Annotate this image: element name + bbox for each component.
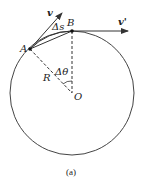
circular-motion-diagram: A B O R v v' Δs Δθ (a)	[0, 0, 145, 181]
label-b: B	[66, 17, 74, 28]
label-o: O	[74, 91, 82, 102]
point-a	[28, 47, 32, 51]
chord-ab	[30, 31, 72, 49]
label-velocity-b: v'	[118, 16, 127, 27]
label-angle: Δθ	[54, 66, 68, 77]
label-r: R	[42, 72, 51, 83]
label-a: A	[19, 43, 27, 54]
angle-arc	[63, 81, 72, 84]
label-arc-ds: Δs	[51, 21, 64, 32]
point-b	[70, 29, 74, 33]
figure-caption: (a)	[66, 167, 76, 177]
label-velocity-a: v	[47, 7, 53, 18]
